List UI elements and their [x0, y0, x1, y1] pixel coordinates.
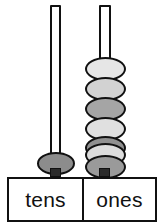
label-ones: ones [96, 189, 142, 210]
rod-foot-ones [99, 168, 110, 177]
label-cell-ones: ones [82, 179, 155, 220]
rod-tens [50, 5, 61, 173]
place-value-abacus-figure: tens ones [0, 0, 164, 222]
rod-foot-tens [50, 168, 61, 177]
label-tens: tens [25, 189, 66, 210]
place-value-label-box: tens ones [7, 177, 157, 222]
label-cell-tens: tens [9, 179, 82, 220]
